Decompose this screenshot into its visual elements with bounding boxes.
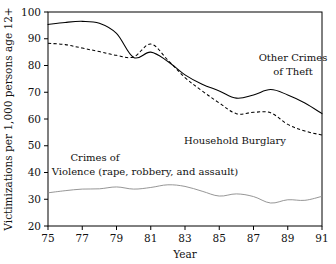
x-axis-tick-labels: 757779818385878991	[41, 232, 328, 244]
annotation-crimes-of-violence-line2: Violence (rape, robbery, and assault)	[51, 166, 239, 177]
series-line-crimes-of-violence	[48, 185, 322, 203]
x-axis-title: Year	[172, 248, 197, 260]
y-tick-label: 70	[28, 86, 41, 98]
y-axis-title: Victimizations per 1,000 persons age 12+	[2, 7, 14, 231]
y-axis-tick-labels: 2030405060708090100	[21, 6, 41, 232]
y-tick-label: 80	[28, 59, 41, 71]
chart-container: 2030405060708090100 757779818385878991 V…	[0, 0, 336, 264]
y-tick-label: 90	[28, 32, 41, 44]
x-tick-label: 75	[41, 232, 54, 244]
annotation-crimes-of-violence-line1: Crimes of	[70, 152, 120, 163]
annotation-other-crimes-of-theft-line1: Other Crimes	[259, 52, 328, 63]
y-tick-label: 30	[28, 193, 41, 205]
plot-frame	[48, 12, 322, 226]
x-tick-label: 81	[144, 232, 157, 244]
x-tick-label: 87	[247, 232, 260, 244]
annotation-other-crimes-of-theft-line2: of Theft	[273, 66, 313, 77]
y-tick-label: 50	[28, 139, 41, 151]
x-tick-label: 89	[281, 232, 294, 244]
x-tick-label: 77	[76, 232, 89, 244]
x-tick-label: 91	[315, 232, 328, 244]
y-tick-label: 100	[21, 6, 41, 18]
x-axis-tickmarks	[48, 226, 322, 230]
x-tick-label: 79	[110, 232, 123, 244]
y-tick-label: 40	[28, 166, 41, 178]
y-axis-tickmarks	[44, 12, 48, 226]
y-tick-label: 20	[28, 220, 41, 232]
y-tick-label: 60	[28, 113, 41, 125]
annotation-household-burglary: Household Burglary	[184, 135, 286, 146]
x-tick-label: 85	[213, 232, 226, 244]
line-chart: 2030405060708090100 757779818385878991 V…	[0, 0, 336, 264]
x-tick-label: 83	[178, 232, 191, 244]
